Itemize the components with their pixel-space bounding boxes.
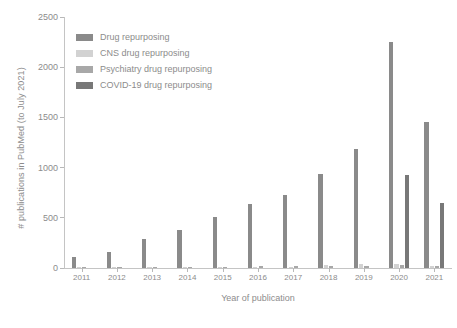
bar [440, 203, 444, 268]
y-axis-tick-label: 1000 [38, 162, 58, 174]
x-axis-tick-mark [152, 268, 153, 272]
x-axis-tick-label: 2015 [203, 273, 243, 283]
legend-label: CNS drug repurposing [100, 48, 190, 59]
x-axis-tick-mark [293, 268, 294, 272]
x-axis-tick-mark [82, 268, 83, 272]
x-axis-tick-mark [187, 268, 188, 272]
x-axis-tick-mark [258, 268, 259, 272]
x-axis-tick-label: 2013 [132, 273, 172, 283]
x-axis-tick-label: 2017 [273, 273, 313, 283]
x-axis-tick-mark [223, 268, 224, 272]
x-axis-tick-label: 2011 [62, 273, 102, 283]
y-axis-tick-label: 1500 [38, 111, 58, 123]
bar [318, 174, 322, 268]
chart-legend: Drug repurposingCNS drug repurposingPsyc… [76, 30, 276, 94]
bar [177, 230, 181, 268]
x-axis-tick-label: 2018 [309, 273, 349, 283]
bar [405, 175, 409, 268]
bar [354, 149, 358, 268]
legend-swatch-icon [76, 50, 93, 57]
bar [142, 239, 146, 268]
legend-item: CNS drug repurposing [76, 46, 276, 60]
bar [213, 217, 217, 268]
legend-label: Drug repurposing [100, 32, 170, 43]
bar [72, 257, 76, 268]
legend-label: Psychiatry drug repurposing [100, 64, 212, 75]
y-axis-tick-label: 0 [53, 262, 58, 274]
x-axis-label: Year of publication [64, 292, 452, 304]
bar [424, 122, 428, 268]
bar [107, 252, 111, 268]
x-axis-tick-label: 2014 [167, 273, 207, 283]
legend-swatch-icon [76, 66, 93, 73]
legend-swatch-icon [76, 34, 93, 41]
x-axis-tick-label: 2012 [97, 273, 137, 283]
x-axis-tick-mark [364, 268, 365, 272]
bar-chart-figure: # publications in PubMed (to July 2021) … [0, 0, 457, 328]
x-axis-tick-label: 2020 [379, 273, 419, 283]
bar [283, 195, 287, 268]
x-axis-tick-mark [329, 268, 330, 272]
bar [389, 42, 393, 268]
x-axis-tick-label: 2021 [414, 273, 454, 283]
x-axis-tick-mark [399, 268, 400, 272]
x-axis-tick-mark [117, 268, 118, 272]
y-axis-tick-label: 500 [43, 212, 58, 224]
legend-item: Drug repurposing [76, 30, 276, 44]
x-axis-tick-label: 2019 [344, 273, 384, 283]
x-axis-tick-label: 2016 [238, 273, 278, 283]
x-axis-tick-mark [434, 268, 435, 272]
legend-label: COVID-19 drug repurposing [100, 80, 212, 91]
y-axis-tick-label: 2500 [38, 11, 58, 23]
bar [248, 204, 252, 268]
y-axis-ticks: 05001000150020002500 [18, 10, 64, 275]
legend-item: COVID-19 drug repurposing [76, 78, 276, 92]
x-axis-ticks: 2011201220132014201520162017201820192020… [64, 268, 452, 292]
y-axis-tick-label: 2000 [38, 61, 58, 73]
legend-swatch-icon [76, 82, 93, 89]
legend-item: Psychiatry drug repurposing [76, 62, 276, 76]
